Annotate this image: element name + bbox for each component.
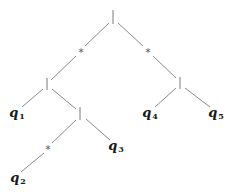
star-lower-node: *	[45, 144, 51, 155]
leaf-q5-subscript: 5	[218, 111, 224, 121]
leaf-q3: q3	[108, 139, 124, 153]
star-left-node: *	[78, 47, 84, 58]
edge-star-left-alt-left	[51, 56, 76, 80]
edge-alt-left-q1	[22, 89, 43, 107]
leaf-q5: q5	[208, 106, 224, 120]
edge-alt-lower-star-lower	[52, 120, 76, 143]
edge-alt-lower-q3	[86, 119, 110, 140]
leaf-q1-base: q	[9, 105, 18, 120]
edge-alt-right-q5	[185, 88, 210, 107]
edge-alt-left-alt-lower	[52, 89, 76, 109]
edge-root-star-left	[85, 23, 109, 46]
leaf-q4-subscript: 4	[152, 111, 158, 121]
leaf-q1: q1	[9, 106, 25, 120]
edge-star-right-alt-right	[153, 56, 176, 78]
leaf-q2-base: q	[10, 170, 19, 185]
leaf-q2: q2	[10, 171, 26, 185]
leaf-q2-subscript: 2	[20, 176, 26, 186]
star-right-node: *	[145, 47, 151, 58]
leaf-q1-subscript: 1	[19, 111, 25, 121]
leaf-q5-base: q	[208, 105, 217, 120]
leaf-q3-subscript: 3	[118, 144, 124, 154]
edge-star-lower-q2	[21, 153, 44, 172]
tree-edges	[0, 0, 234, 194]
leaf-q4-base: q	[142, 105, 151, 120]
leaf-q3-base: q	[108, 138, 117, 153]
edge-alt-right-q4	[155, 88, 176, 107]
edge-root-star-right	[118, 23, 143, 46]
leaf-q4: q4	[142, 106, 158, 120]
